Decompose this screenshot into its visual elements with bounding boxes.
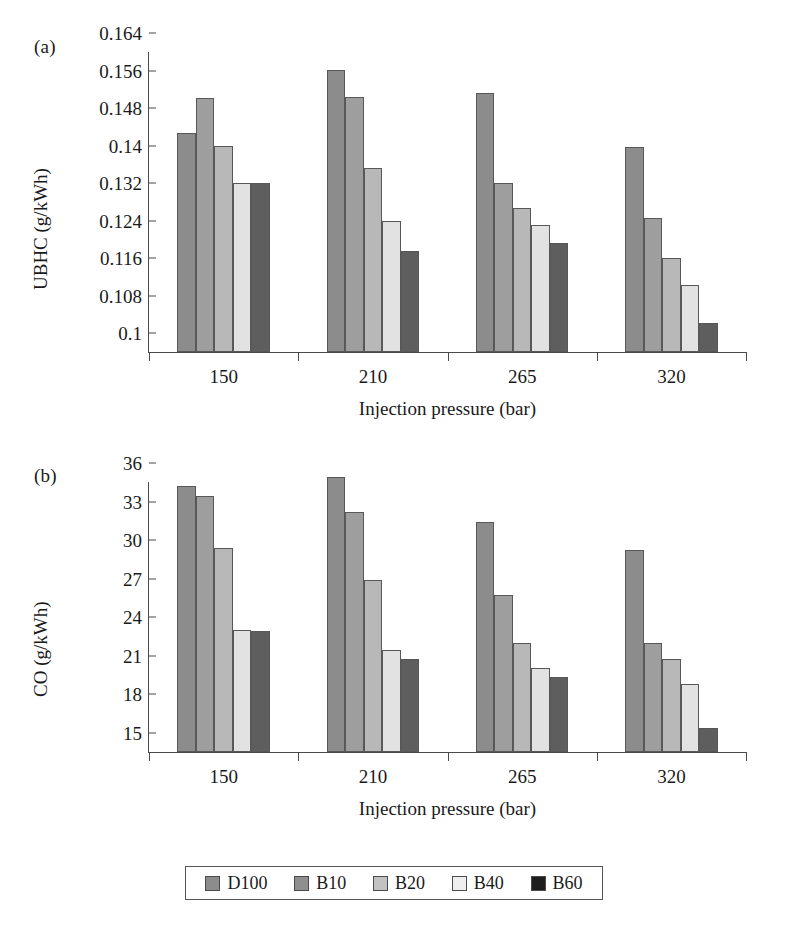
- y-axis-tick-label: 0.164: [99, 24, 149, 43]
- bar-b10-210: [345, 512, 364, 752]
- chart-legend: D100B10B20B40B60: [185, 866, 603, 900]
- y-axis-tick-label: 15: [123, 724, 149, 743]
- bar-d100-210: [327, 477, 346, 752]
- y-axis-tick-label: 30: [123, 531, 149, 550]
- panel-label-b: (b): [34, 465, 57, 487]
- x-axis-title: Injection pressure (bar): [359, 798, 536, 820]
- x-axis-tick: [597, 752, 598, 761]
- y-axis-tick: 21: [123, 646, 149, 665]
- y-axis-tick: 0.156: [99, 61, 149, 80]
- bar-d100-265: [476, 93, 495, 352]
- y-axis-tick: 24: [123, 608, 149, 627]
- bar-b60-150: [251, 631, 270, 752]
- y-axis-tick-mark: [149, 108, 156, 109]
- legend-item-b40: B40: [452, 874, 504, 892]
- plot-area-a: 0.10.1080.1160.1240.1320.140.1480.1560.1…: [148, 52, 746, 353]
- y-axis-tick-label: 21: [123, 646, 149, 665]
- bar-b60-265: [550, 243, 569, 352]
- y-axis-tick: 27: [123, 569, 149, 588]
- x-axis-tick: [448, 352, 449, 361]
- bar-b20-265: [513, 208, 532, 352]
- bar-d100-320: [625, 147, 644, 352]
- legend-item-b60: B60: [531, 874, 583, 892]
- legend-item-d100: D100: [205, 874, 267, 892]
- x-axis-tick-label: 210: [359, 766, 388, 788]
- y-axis-tick: 33: [123, 492, 149, 511]
- bar-b10-210: [345, 97, 364, 352]
- bar-b10-150: [196, 496, 215, 752]
- y-axis-tick-mark: [149, 145, 156, 146]
- y-axis-tick-mark: [149, 655, 156, 656]
- y-axis-tick-mark: [149, 333, 156, 334]
- y-axis-tick-mark: [149, 295, 156, 296]
- y-axis-tick-mark: [149, 183, 156, 184]
- y-axis-tick: 0.14: [109, 136, 149, 155]
- y-axis-tick-label: 27: [123, 569, 149, 588]
- y-axis-tick-label: 36: [123, 454, 149, 473]
- y-axis-tick-mark: [149, 220, 156, 221]
- bar-d100-210: [327, 70, 346, 352]
- y-axis-tick-label: 0.1: [118, 324, 149, 343]
- y-axis-tick: 0.148: [99, 99, 149, 118]
- y-axis-tick: 0.164: [99, 24, 149, 43]
- bar-b10-150: [196, 98, 215, 352]
- bar-d100-265: [476, 522, 495, 752]
- bar-d100-320: [625, 550, 644, 752]
- bar-b20-210: [364, 168, 383, 352]
- bar-b40-320: [681, 285, 700, 352]
- bar-b60-210: [401, 659, 420, 752]
- y-axis-tick-mark: [149, 694, 156, 695]
- bar-b20-320: [662, 659, 681, 752]
- legend-swatch-icon: [205, 876, 220, 891]
- y-axis-tick-label: 18: [123, 685, 149, 704]
- y-axis-tick: 0.108: [99, 286, 149, 305]
- plot-area-b: 1518212427303336150210265320Injection pr…: [148, 482, 746, 753]
- x-axis-tick: [746, 752, 747, 761]
- chart-panel-b: (b) CO (g/kWh) 1518212427303336150210265…: [0, 432, 790, 852]
- x-axis-tick-label: 265: [508, 366, 537, 388]
- y-axis-tick: 36: [123, 454, 149, 473]
- bar-b60-150: [251, 183, 270, 352]
- y-axis-tick-mark: [149, 733, 156, 734]
- y-axis-tick: 0.1: [118, 324, 149, 343]
- bar-b20-210: [364, 580, 383, 752]
- y-axis-tick-label: 33: [123, 492, 149, 511]
- y-axis-tick-label: 0.148: [99, 99, 149, 118]
- bar-b40-265: [531, 668, 550, 752]
- y-axis-title-a: UBHC (g/kWh): [30, 168, 52, 290]
- y-axis-tick: 30: [123, 531, 149, 550]
- y-axis-tick-label: 24: [123, 608, 149, 627]
- x-axis-tick: [298, 752, 299, 761]
- legend-label: B40: [474, 874, 504, 892]
- x-axis-tick: [149, 352, 150, 361]
- legend-label: D100: [227, 874, 267, 892]
- legend-swatch-icon: [294, 876, 309, 891]
- y-axis-tick-label: 0.108: [99, 286, 149, 305]
- bar-b10-265: [494, 595, 513, 752]
- x-axis-tick: [298, 352, 299, 361]
- y-axis-tick-mark: [149, 70, 156, 71]
- y-axis-tick: 18: [123, 685, 149, 704]
- bar-b60-320: [699, 323, 718, 352]
- x-axis-tick-label: 320: [657, 366, 686, 388]
- bar-b10-265: [494, 183, 513, 352]
- x-axis-title: Injection pressure (bar): [359, 398, 536, 420]
- x-axis-tick-label: 150: [209, 366, 238, 388]
- x-axis-tick: [149, 752, 150, 761]
- bar-b40-150: [233, 630, 252, 752]
- x-axis-tick: [597, 352, 598, 361]
- x-axis-tick: [448, 752, 449, 761]
- legend-label: B20: [395, 874, 425, 892]
- y-axis-tick-label: 0.116: [100, 249, 149, 268]
- bar-b60-210: [401, 251, 420, 352]
- bar-b40-210: [382, 650, 401, 752]
- y-axis-tick-label: 0.132: [99, 174, 149, 193]
- legend-item-b10: B10: [294, 874, 346, 892]
- legend-swatch-icon: [373, 876, 388, 891]
- bar-b40-265: [531, 225, 550, 353]
- x-axis-tick-label: 150: [209, 766, 238, 788]
- y-axis-tick: 0.116: [100, 249, 149, 268]
- bar-b20-320: [662, 258, 681, 352]
- y-axis-tick: 0.124: [99, 211, 149, 230]
- y-axis-title-b: CO (g/kWh): [30, 601, 52, 697]
